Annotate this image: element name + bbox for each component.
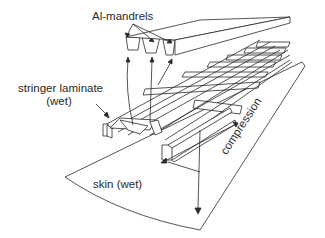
label-skin: skin (wet) <box>93 178 142 191</box>
label-stringer-laminate: stringer laminate (wet) <box>18 82 100 108</box>
assembly-drawing <box>0 0 325 238</box>
label-al-mandrels: Al-mandrels <box>92 10 153 23</box>
label-stringer-line2: (wet) <box>18 95 100 108</box>
label-stringer-line1: stringer laminate <box>18 82 100 95</box>
diagram-canvas: Al-mandrels stringer laminate (wet) skin… <box>0 0 325 238</box>
